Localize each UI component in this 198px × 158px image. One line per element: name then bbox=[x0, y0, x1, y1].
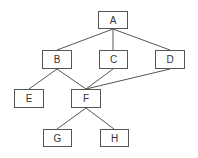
node-h: H bbox=[100, 129, 129, 147]
edge-b-e bbox=[29, 69, 57, 89]
edge-f-h bbox=[86, 108, 114, 129]
edge-b-f bbox=[57, 69, 86, 89]
node-f: F bbox=[71, 89, 101, 108]
node-g: G bbox=[43, 129, 72, 147]
node-d: D bbox=[155, 50, 185, 69]
node-e-label: E bbox=[26, 93, 33, 104]
edge-f-g bbox=[57, 108, 86, 129]
node-e: E bbox=[14, 89, 44, 108]
node-f-label: F bbox=[83, 93, 89, 104]
node-b-label: B bbox=[54, 54, 61, 65]
node-g-label: G bbox=[54, 133, 62, 144]
edge-d-f bbox=[86, 69, 170, 89]
node-b: B bbox=[42, 50, 72, 69]
node-c: C bbox=[99, 50, 128, 69]
node-c-label: C bbox=[110, 54, 117, 65]
node-a: A bbox=[98, 11, 128, 29]
node-a-label: A bbox=[110, 15, 117, 26]
edge-a-b bbox=[57, 29, 113, 50]
hierarchy-diagram: A B C D E F G H bbox=[0, 0, 198, 158]
edge-a-d bbox=[113, 29, 170, 50]
node-d-label: D bbox=[166, 54, 173, 65]
node-h-label: H bbox=[111, 133, 118, 144]
